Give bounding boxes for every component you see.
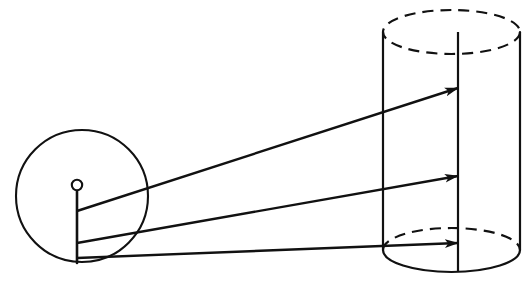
ray-middle bbox=[77, 176, 458, 243]
center-point-circle bbox=[72, 180, 82, 190]
cylinder-bottom-front-arc bbox=[383, 250, 520, 272]
ray-group bbox=[77, 88, 458, 258]
diagram-svg bbox=[0, 0, 528, 285]
cylinder-bottom-back-arc bbox=[383, 228, 520, 250]
ray-upper bbox=[77, 88, 458, 211]
cylinder-top-ellipse bbox=[383, 10, 520, 54]
ray-lower bbox=[77, 243, 458, 258]
cylinder-group bbox=[383, 10, 520, 272]
diagram-canvas bbox=[0, 0, 528, 285]
